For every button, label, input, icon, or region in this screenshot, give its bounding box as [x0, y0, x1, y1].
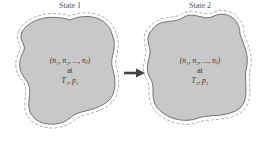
process-arrow-icon [124, 69, 145, 78]
state2-conditions: T₂, p₂ [160, 76, 240, 85]
state2-composition: (n₁, n₂, ..., nⱼ) [160, 56, 240, 65]
state1-title: State 1 [48, 1, 92, 10]
state1-composition: (n₁, n₂, ..., nⱼ) [30, 56, 110, 65]
state2-at: at [160, 66, 240, 75]
state2-title: State 2 [178, 1, 222, 10]
state1-conditions: T₁, p₁ [30, 76, 110, 85]
state1-at: at [30, 66, 110, 75]
